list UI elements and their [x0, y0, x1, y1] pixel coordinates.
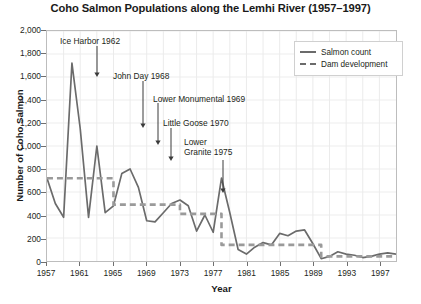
x-axis-label: Year: [46, 283, 397, 294]
series-line-salmon-count: [47, 63, 396, 259]
legend-label-dam-development: Dam development: [321, 60, 387, 69]
chart-title: Coho Salmon Populations along the Lemhi …: [0, 2, 421, 14]
chart-container: Coho Salmon Populations along the Lemhi …: [0, 0, 421, 304]
y-tick-label: 1,600: [20, 71, 41, 81]
x-tick-label: 1961: [70, 268, 89, 278]
x-tick-mark: [113, 262, 114, 266]
y-tick-label: 1,800: [20, 48, 41, 58]
annotation-label: Little Goose 1970: [163, 118, 229, 128]
x-tick-mark: [313, 262, 314, 266]
legend-swatch-solid-icon: [300, 51, 316, 53]
x-tick-mark: [180, 262, 181, 266]
x-tick-label: 1985: [271, 268, 290, 278]
y-tick-label: 2,000: [20, 25, 41, 35]
x-tick-label: 1977: [204, 268, 223, 278]
chart-legend: Salmon count Dam development: [294, 41, 403, 76]
x-tick-mark: [247, 262, 248, 266]
x-axis: 1957196119651969197319771981198519891993…: [46, 262, 397, 282]
x-tick-label: 1957: [37, 268, 56, 278]
y-tick-label: 800: [27, 164, 41, 174]
y-axis: Number of Coho Salmon 02004006008001,000…: [0, 30, 46, 262]
x-tick-mark: [280, 262, 281, 266]
x-tick-label: 1989: [304, 268, 323, 278]
series-line-dam-development: [47, 178, 396, 256]
x-tick-mark: [213, 262, 214, 266]
legend-label-salmon-count: Salmon count: [321, 48, 371, 57]
y-tick-label: 1,200: [20, 118, 41, 128]
x-tick-label: 1965: [104, 268, 123, 278]
x-tick-mark: [347, 262, 348, 266]
annotation-label: Lower Monumental 1969: [153, 94, 245, 104]
x-tick-mark: [146, 262, 147, 266]
y-tick-label: 600: [27, 187, 41, 197]
annotation-label: Lower Granite 1975: [184, 137, 236, 157]
legend-item-dam-development: Dam development: [300, 58, 397, 70]
annotation-label: John Day 1968: [113, 71, 169, 81]
y-tick-label: 400: [27, 211, 41, 221]
x-tick-mark: [79, 262, 80, 266]
annotation-label: Ice Harbor 1962: [60, 36, 120, 46]
legend-swatch-dashed-icon: [300, 63, 316, 65]
x-tick-label: 1993: [338, 268, 357, 278]
x-tick-label: 1981: [237, 268, 256, 278]
x-tick-mark: [380, 262, 381, 266]
legend-item-salmon-count: Salmon count: [300, 46, 397, 58]
x-tick-label: 1969: [137, 268, 156, 278]
x-tick-label: 1973: [170, 268, 189, 278]
x-tick-label: 1997: [371, 268, 390, 278]
x-tick-mark: [46, 262, 47, 266]
y-tick-label: 1,000: [20, 141, 41, 151]
y-tick-label: 1,400: [20, 95, 41, 105]
y-tick-label: 200: [27, 234, 41, 244]
